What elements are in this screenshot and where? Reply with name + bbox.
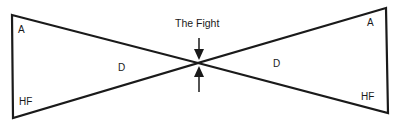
left-top-label: A <box>18 25 25 35</box>
right-bottom-label: HF <box>361 92 374 102</box>
right-top-label: A <box>367 18 374 28</box>
left-middle-label: D <box>118 63 125 73</box>
arrow-down-icon <box>194 38 204 60</box>
left-triangle <box>12 15 198 118</box>
right-middle-label: D <box>273 59 280 69</box>
bowtie-diagram: The Fight A D HF A D HF <box>0 0 398 125</box>
left-bottom-label: HF <box>19 97 32 107</box>
right-triangle <box>198 8 388 113</box>
diagram-title: The Fight <box>175 18 219 29</box>
arrow-up-icon <box>194 66 204 92</box>
